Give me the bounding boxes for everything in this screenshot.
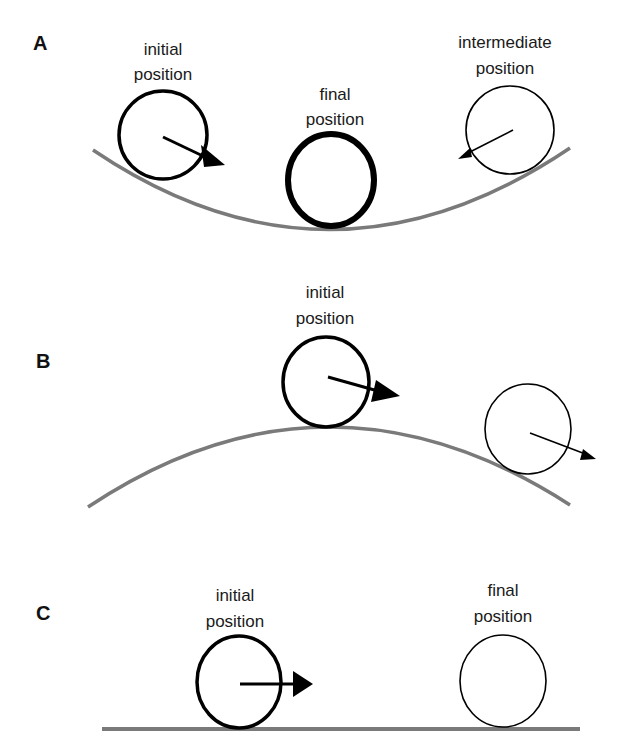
caption-initial-line2: position [296, 309, 355, 328]
caption-initial-line1: initial [306, 283, 345, 302]
panel-label-c: C [36, 602, 50, 624]
force-arrow-initial [163, 137, 205, 157]
caption-intermediate-line2: position [476, 59, 535, 78]
panel-c: C initial position final position [36, 581, 580, 729]
ball-final [288, 134, 374, 226]
arrowhead-icon [371, 380, 400, 402]
caption-final-line2: position [474, 607, 533, 626]
valley-surface [93, 148, 570, 230]
caption-initial-line1: initial [144, 40, 183, 59]
force-arrow-intermediate [466, 130, 513, 154]
force-arrow-displaced [530, 433, 588, 455]
arrowhead-icon [201, 145, 225, 167]
panel-label-b: B [36, 350, 50, 372]
caption-final-line2: position [306, 110, 365, 129]
ball-intermediate [466, 86, 554, 174]
ball-initial [197, 636, 281, 728]
caption-initial-line2: position [134, 65, 193, 84]
arrowhead-icon [293, 671, 313, 697]
equilibrium-diagram: A initial position final position interm… [0, 0, 621, 750]
caption-initial-line2: position [206, 612, 265, 631]
ball-initial [119, 91, 207, 179]
panel-b: B initial position [36, 283, 596, 507]
arrowhead-icon [458, 148, 472, 159]
caption-final-line1: final [487, 581, 518, 600]
arrowhead-icon [580, 449, 596, 460]
ball-initial [283, 337, 369, 427]
caption-intermediate-line1: intermediate [458, 33, 552, 52]
panel-a: A initial position final position interm… [33, 32, 570, 230]
ball-final [460, 635, 546, 727]
caption-initial-line1: initial [216, 586, 255, 605]
hill-surface [88, 427, 570, 507]
caption-final-line1: final [319, 85, 350, 104]
panel-label-a: A [33, 32, 47, 54]
ball-displaced [485, 384, 571, 474]
